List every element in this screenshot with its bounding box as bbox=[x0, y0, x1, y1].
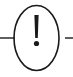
warning-icon-canvas: Warning / alert symbol bbox=[0, 0, 73, 77]
exclamation-dot bbox=[34, 41, 39, 46]
warning-alert-icon: Warning / alert symbol bbox=[0, 0, 73, 77]
